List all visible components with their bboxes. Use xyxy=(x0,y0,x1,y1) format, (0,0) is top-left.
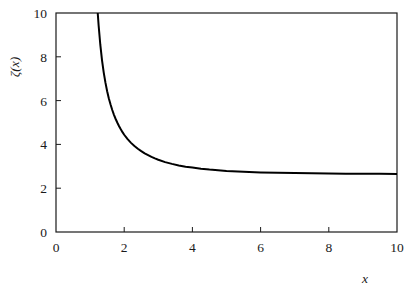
x-tick-label: 6 xyxy=(257,240,264,255)
y-axis-title: ζ(x) xyxy=(7,56,22,77)
x-tick-label: 10 xyxy=(390,240,404,255)
y-tick-label: 10 xyxy=(34,6,48,21)
y-tick-label: 2 xyxy=(40,181,47,196)
y-tick-label: 4 xyxy=(40,137,47,152)
y-tick-label: 6 xyxy=(40,94,47,109)
y-tick-label: 8 xyxy=(40,50,47,65)
figure-background xyxy=(0,0,420,301)
x-tick-label: 4 xyxy=(189,240,196,255)
plot-canvas: 0246810 0246810 x ζ(x) xyxy=(0,0,420,301)
zeta-function-figure: 0246810 0246810 x ζ(x) xyxy=(0,0,420,301)
x-axis-title: x xyxy=(361,271,368,286)
x-tick-label: 8 xyxy=(325,240,332,255)
y-tick-label: 0 xyxy=(40,225,47,240)
x-tick-label: 2 xyxy=(121,240,128,255)
x-tick-label: 0 xyxy=(53,240,60,255)
